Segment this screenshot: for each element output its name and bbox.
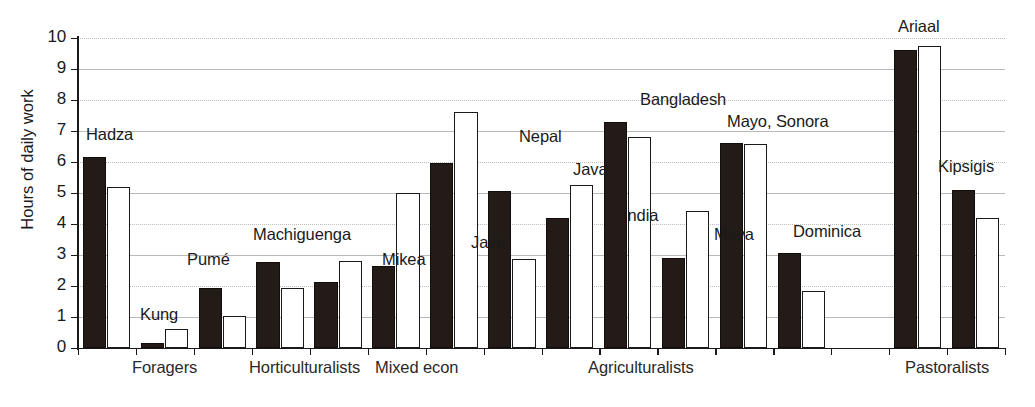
series-label: Mayo, Sonora [727, 112, 829, 131]
category-label-agriculturalists: Agriculturalists [588, 358, 694, 377]
bar [952, 190, 975, 348]
x-tick-8 [542, 348, 543, 355]
category-label-foragers: Foragers [132, 358, 197, 377]
x-tick-1 [136, 348, 137, 355]
bar [165, 329, 188, 348]
series-label: Machiguenga [253, 225, 351, 244]
x-tick-13 [831, 348, 832, 355]
y-tick-label-7: 7 [30, 120, 66, 140]
series-label: Pumé [187, 250, 230, 269]
x-tick-4 [310, 348, 311, 355]
y-tick-label-2: 2 [30, 275, 66, 295]
y-tick-label-6: 6 [30, 151, 66, 171]
series-label: Kung [140, 305, 178, 324]
bar [281, 288, 304, 348]
bar [488, 191, 511, 348]
bar [546, 218, 569, 348]
y-tick-label-1: 1 [30, 306, 66, 326]
series-label: Ariaal [898, 17, 940, 36]
series-label: Java [573, 160, 607, 179]
bar [199, 288, 222, 348]
bar [686, 211, 709, 348]
category-label-mixed-econ: Mixed econ [375, 358, 458, 377]
bar [512, 259, 535, 348]
bar [662, 258, 685, 348]
series-label: Nepal [519, 127, 562, 146]
bar [604, 122, 627, 348]
bar [918, 46, 941, 348]
bar [744, 144, 767, 348]
bar [141, 343, 164, 348]
series-label: Maya [714, 225, 754, 244]
bar [339, 261, 362, 348]
bar [720, 143, 743, 348]
y-tick-label-5: 5 [30, 182, 66, 202]
bar [628, 137, 651, 348]
series-label: Dominica [793, 222, 861, 241]
y-tick-label-9: 9 [30, 58, 66, 78]
y-tick-label-4: 4 [30, 213, 66, 233]
y-tick-label-8: 8 [30, 89, 66, 109]
plot-area [78, 38, 1005, 348]
bar [372, 266, 395, 348]
bar [107, 187, 130, 348]
bar [314, 282, 337, 348]
bar [570, 185, 593, 348]
x-tick-7 [484, 348, 485, 355]
bar [802, 291, 825, 348]
series-label: Java [471, 233, 505, 252]
series-label: India [623, 206, 658, 225]
x-tick-3 [252, 348, 253, 355]
bar [430, 163, 453, 348]
y-tick-label-3: 3 [30, 244, 66, 264]
bar [83, 157, 106, 348]
x-tick-6 [426, 348, 427, 355]
x-tick-15 [947, 348, 948, 355]
series-label: Bangladesh [640, 90, 726, 109]
x-tick-12 [773, 348, 774, 355]
series-label: Kipsigis [938, 157, 994, 176]
bar [396, 193, 419, 348]
bar [976, 218, 999, 348]
y-tick-label-0: 0 [30, 337, 66, 357]
chart-figure: Hours of daily work 012345678910 HadzaKu… [0, 0, 1035, 407]
x-tick-10 [657, 348, 658, 355]
bar [894, 50, 917, 348]
series-label: Hadza [86, 125, 133, 144]
x-tick-11 [715, 348, 716, 355]
bar [778, 253, 801, 348]
x-tick-5 [368, 348, 369, 355]
x-tick-9 [599, 348, 600, 355]
x-tick-16 [1005, 348, 1006, 355]
x-tick-14 [889, 348, 890, 355]
bar [223, 316, 246, 348]
x-tick-0 [78, 348, 79, 355]
x-tick-2 [194, 348, 195, 355]
y-tick-label-10: 10 [30, 27, 66, 47]
category-label-horticulturalists: Horticulturalists [249, 358, 360, 377]
category-label-pastoralists: Pastoralists [905, 358, 989, 377]
bar [454, 112, 477, 348]
bar [256, 262, 279, 348]
series-label: Mikea [382, 250, 426, 269]
